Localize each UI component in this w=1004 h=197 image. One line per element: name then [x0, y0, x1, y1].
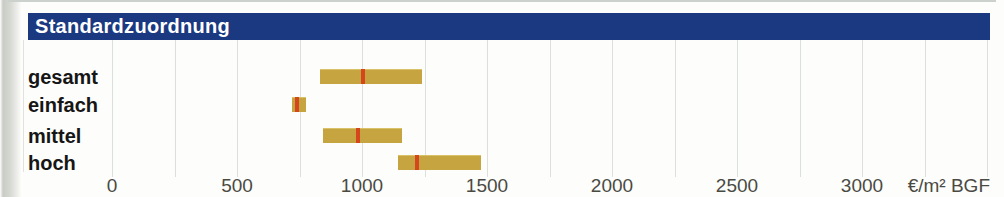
gridline [925, 40, 926, 177]
page-edge-shading [0, 0, 22, 197]
range-bar-gesamt [320, 69, 423, 84]
gridline [175, 40, 176, 177]
marker-hoch [415, 155, 419, 170]
chart-header: Standardzuordnung [28, 13, 990, 40]
marker-mittel [356, 128, 360, 143]
gridline [987, 40, 988, 177]
x-tick-label-500: 500 [221, 175, 253, 197]
range-bar-mittel [323, 128, 402, 143]
x-tick-label-3000: 3000 [841, 175, 883, 197]
gridline [737, 40, 738, 177]
marker-einfach [295, 97, 299, 112]
axis-unit-label: €/m² BGF [908, 175, 990, 197]
x-tick-label-1500: 1500 [466, 175, 508, 197]
gridline [362, 40, 363, 177]
gridline [487, 40, 488, 177]
x-tick-label-2000: 2000 [591, 175, 633, 197]
plot-left-border [23, 40, 24, 172]
chart-title: Standardzuordnung [35, 15, 230, 38]
top-rule [8, 0, 996, 2]
marker-gesamt [361, 69, 365, 84]
gridline [800, 40, 801, 177]
x-tick-label-0: 0 [107, 175, 118, 197]
category-label-hoch: hoch [28, 151, 76, 174]
gridline [675, 40, 676, 177]
chart-panel: Standardzuordnung gesamteinfachmittelhoc… [0, 0, 1004, 197]
gridline [112, 40, 113, 177]
category-label-gesamt: gesamt [28, 65, 98, 88]
category-label-einfach: einfach [28, 93, 98, 116]
category-label-mittel: mittel [28, 124, 81, 147]
range-bar-hoch [398, 155, 481, 170]
gridline [862, 40, 863, 177]
x-tick-label-1000: 1000 [341, 175, 383, 197]
gridline [612, 40, 613, 177]
x-tick-label-2500: 2500 [716, 175, 758, 197]
gridline [237, 40, 238, 177]
gridline [550, 40, 551, 177]
